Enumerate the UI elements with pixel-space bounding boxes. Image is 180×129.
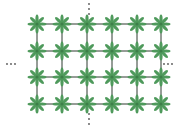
flower-node-icon bbox=[152, 42, 171, 61]
flower-node-icon bbox=[28, 68, 47, 87]
flower-center bbox=[110, 49, 113, 52]
flower-center bbox=[35, 75, 38, 78]
flower-node-icon bbox=[78, 68, 97, 87]
flower-node-icon bbox=[78, 95, 97, 114]
flower-node-icon bbox=[152, 95, 171, 114]
flower-node-icon bbox=[103, 68, 122, 87]
flower-node-icon bbox=[152, 15, 171, 34]
flower-center bbox=[110, 22, 113, 25]
lattice-lines bbox=[37, 24, 161, 104]
flower-center bbox=[85, 102, 88, 105]
flower-node-icon bbox=[53, 68, 72, 87]
ellipsis-left-icon bbox=[6, 63, 16, 65]
flower-center bbox=[35, 102, 38, 105]
flower-center bbox=[60, 102, 63, 105]
flower-center bbox=[159, 49, 162, 52]
flower-center bbox=[135, 49, 138, 52]
flower-node-icon bbox=[128, 95, 147, 114]
flower-center bbox=[85, 75, 88, 78]
flower-node-icon bbox=[128, 42, 147, 61]
flower-center bbox=[135, 22, 138, 25]
flower-node-icon bbox=[28, 15, 47, 34]
flower-node-icon bbox=[53, 15, 72, 34]
flower-center bbox=[135, 102, 138, 105]
flower-center bbox=[135, 75, 138, 78]
flower-center bbox=[159, 75, 162, 78]
flower-node-icon bbox=[78, 15, 97, 34]
flower-node-icon bbox=[152, 68, 171, 87]
flower-node-icon bbox=[103, 95, 122, 114]
ellipsis-bottom-icon bbox=[88, 113, 90, 125]
flower-node-icon bbox=[53, 42, 72, 61]
flower-center bbox=[35, 22, 38, 25]
flower-node-icon bbox=[53, 95, 72, 114]
flower-center bbox=[110, 102, 113, 105]
flower-center bbox=[60, 75, 63, 78]
flower-center bbox=[60, 49, 63, 52]
flower-node-icon bbox=[103, 42, 122, 61]
flower-node-icon bbox=[78, 42, 97, 61]
flower-center bbox=[110, 75, 113, 78]
flower-node-icon bbox=[128, 15, 147, 34]
flower-node-icon bbox=[103, 15, 122, 34]
ellipsis-top-icon bbox=[88, 3, 90, 15]
flower-center bbox=[159, 22, 162, 25]
lattice-nodes bbox=[28, 15, 171, 114]
flower-node-icon bbox=[128, 68, 147, 87]
lattice-diagram bbox=[0, 0, 180, 129]
flower-center bbox=[159, 102, 162, 105]
ellipsis-right-icon bbox=[163, 63, 173, 65]
flower-center bbox=[85, 22, 88, 25]
flower-center bbox=[60, 22, 63, 25]
flower-center bbox=[35, 49, 38, 52]
flower-node-icon bbox=[28, 95, 47, 114]
flower-node-icon bbox=[28, 42, 47, 61]
lattice-canvas bbox=[0, 0, 180, 129]
flower-center bbox=[85, 49, 88, 52]
